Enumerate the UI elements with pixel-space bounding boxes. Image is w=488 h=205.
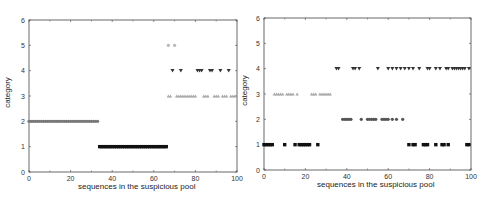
y-tick-label: 6 [256, 15, 260, 22]
left-x-axis-label: sequences in the suspicious pool [78, 182, 195, 191]
data-point [399, 67, 403, 71]
data-point [417, 67, 421, 71]
right-scatter-plot: 0204060801000123456 [244, 0, 488, 205]
data-point [329, 92, 332, 95]
series-category-3 [167, 94, 237, 97]
y-tick-label: 4 [21, 67, 25, 74]
data-point [387, 118, 390, 121]
series-category-4 [171, 69, 231, 73]
y-tick-label: 2 [256, 116, 260, 123]
series-category-1 [98, 145, 168, 148]
data-point [360, 118, 363, 121]
y-tick-label: 1 [21, 143, 25, 150]
y-tick-label: 3 [256, 91, 260, 98]
left-chart-panel: 0204060801000123456 sequences in the sus… [0, 0, 244, 205]
data-point [376, 67, 380, 71]
y-tick-label: 5 [256, 40, 260, 47]
data-point [467, 143, 470, 146]
series-category-4 [334, 67, 470, 71]
data-point [271, 143, 274, 146]
data-point [194, 94, 197, 97]
y-tick-label: 0 [256, 167, 260, 174]
data-point [438, 67, 442, 71]
data-point [407, 143, 410, 146]
data-point [403, 67, 407, 71]
data-point [314, 92, 317, 95]
series-category-2 [341, 118, 404, 121]
data-point [165, 145, 168, 148]
right-chart-panel: 0204060801000123456 sequences in the sus… [244, 0, 488, 205]
y-tick-label: 3 [21, 93, 25, 100]
data-point [447, 143, 450, 146]
series-category-2 [27, 120, 99, 123]
x-tick-label: 80 [192, 175, 200, 182]
series-category-1 [262, 143, 470, 146]
right-x-axis-label: sequences in the suspicious pool [317, 180, 434, 189]
x-tick-label: 100 [231, 175, 243, 182]
x-tick-label: 80 [426, 173, 434, 180]
data-point [167, 44, 170, 47]
y-tick-label: 6 [21, 17, 25, 24]
data-point [179, 69, 183, 73]
data-point [227, 69, 231, 73]
data-point [386, 67, 390, 71]
x-tick-label: 40 [343, 173, 351, 180]
y-tick-label: 5 [21, 42, 25, 49]
data-point [394, 67, 398, 71]
data-point [96, 120, 99, 123]
data-point [283, 143, 286, 146]
data-point [395, 118, 398, 121]
data-point [374, 118, 377, 121]
data-point [169, 94, 172, 97]
data-point [308, 143, 311, 146]
left-y-axis-label: category [3, 77, 12, 108]
data-point [173, 44, 176, 47]
plot-frame [264, 18, 471, 170]
y-tick-label: 1 [256, 141, 260, 148]
data-point [442, 143, 445, 146]
data-point [218, 69, 222, 73]
x-tick-label: 20 [302, 173, 310, 180]
data-point [391, 118, 394, 121]
data-point [413, 143, 416, 146]
x-tick-label: 0 [262, 173, 266, 180]
data-point [390, 67, 394, 71]
data-point [225, 94, 228, 97]
x-tick-label: 0 [27, 175, 31, 182]
series-category-3 [273, 92, 332, 95]
data-point [217, 94, 220, 97]
data-point [349, 118, 352, 121]
data-point [426, 143, 429, 146]
data-point [291, 92, 294, 95]
y-tick-label: 0 [21, 169, 25, 176]
data-point [411, 67, 415, 71]
data-point [281, 92, 284, 95]
x-tick-label: 40 [108, 175, 116, 182]
data-point [407, 67, 411, 71]
x-tick-label: 100 [465, 173, 477, 180]
data-point [401, 118, 404, 121]
right-y-axis-label: category [240, 75, 249, 106]
data-point [434, 143, 437, 146]
x-tick-label: 60 [150, 175, 158, 182]
data-point [206, 94, 209, 97]
left-scatter-plot: 0204060801000123456 [0, 0, 244, 205]
data-point [295, 92, 298, 95]
x-tick-label: 60 [384, 173, 392, 180]
data-point [171, 69, 175, 73]
y-tick-label: 4 [256, 65, 260, 72]
data-point [434, 67, 438, 71]
y-tick-label: 2 [21, 118, 25, 125]
data-point [357, 67, 361, 71]
data-point [293, 143, 296, 146]
series-category-5 [167, 44, 176, 47]
x-tick-label: 20 [67, 175, 75, 182]
data-point [316, 143, 319, 146]
